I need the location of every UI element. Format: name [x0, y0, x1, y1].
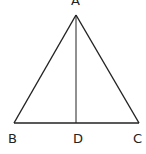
label-c: C — [133, 131, 142, 146]
triangle-diagram: A B D C — [0, 0, 146, 154]
label-a: A — [71, 0, 80, 8]
segment-ab — [14, 15, 76, 123]
label-d: D — [73, 131, 83, 146]
label-b: B — [8, 131, 17, 146]
segment-ac — [76, 15, 139, 123]
